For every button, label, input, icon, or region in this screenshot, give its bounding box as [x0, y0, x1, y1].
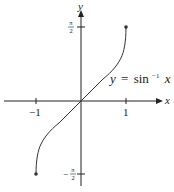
endpoint-dot-upper — [124, 25, 128, 29]
x-tick-label-1: 1 — [123, 106, 129, 118]
x-axis-arrow-icon — [156, 98, 163, 104]
svg-text:2: 2 — [71, 174, 74, 181]
svg-text:π: π — [71, 166, 75, 173]
svg-text:π: π — [69, 19, 73, 26]
svg-text:2: 2 — [69, 27, 72, 34]
x-tick-label-neg1: −1 — [29, 106, 41, 118]
svg-text:−: − — [63, 169, 68, 179]
x-axis-label: x — [164, 94, 170, 106]
y-tick-label-pi-over-2: π 2 — [68, 19, 74, 34]
chart-canvas: x y −1 1 π 2 − π 2 y = sin −1 x — [0, 0, 174, 192]
y-axis-label: y — [77, 0, 83, 12]
function-label: y = sin −1 x — [108, 66, 171, 86]
endpoint-dot-lower — [34, 172, 38, 176]
y-tick-label-neg-pi-over-2: − π 2 — [63, 166, 76, 181]
